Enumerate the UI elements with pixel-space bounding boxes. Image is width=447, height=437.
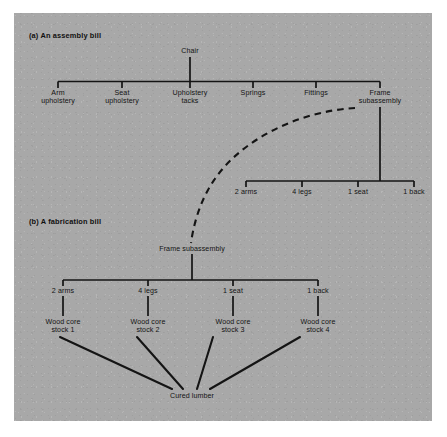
node-label-line2: subassembly (359, 97, 402, 105)
node-label-line2: stock 4 (306, 326, 329, 334)
node-label-1back-b: 1 back (307, 287, 329, 295)
edge-wood2-lumber (137, 337, 183, 389)
node-label-line2: upholstery (105, 97, 139, 105)
node-label-4legs-a: 4 legs (292, 188, 312, 196)
node-label-line1: Upholstery (173, 89, 208, 97)
figure-page: (a) An assembly bill Chair Arm upholster… (0, 0, 447, 437)
edge-wood4-lumber (210, 337, 300, 389)
node-label-fittings: Fittings (304, 89, 328, 97)
node-label-line1: Seat (114, 89, 129, 97)
node-label-seat-upholstery: Seat upholstery (105, 89, 139, 106)
node-label-wood-core-stock-4: Wood core stock 4 (300, 318, 335, 335)
panel-a-caption: (a) An assembly bill (29, 31, 101, 40)
node-label-2arms-a: 2 arms (235, 188, 257, 196)
node-label-1seat-b: 1 seat (223, 287, 243, 295)
node-label-line1: Arm (51, 89, 64, 97)
node-label-4legs-b: 4 legs (138, 287, 158, 295)
node-label-1back-a: 1 back (403, 188, 425, 196)
edge-wood3-lumber (197, 337, 213, 389)
node-label-line2: stock 2 (136, 326, 159, 334)
node-label-arm-upholstery: Arm upholstery (41, 89, 75, 106)
node-label-line1: Wood core (45, 318, 80, 326)
node-label-cured-lumber: Cured lumber (170, 392, 214, 400)
node-label-line1: Wood core (130, 318, 165, 326)
node-label-upholstery-tacks: Upholstery tacks (173, 89, 208, 106)
node-label-wood-core-stock-2: Wood core stock 2 (130, 318, 165, 335)
node-label-line2: stock 3 (221, 326, 244, 334)
dashed-link-curve (191, 108, 355, 243)
node-label-wood-core-stock-1: Wood core stock 1 (45, 318, 80, 335)
node-label-line1: Fittings (304, 89, 328, 97)
node-label-1seat-a: 1 seat (348, 188, 368, 196)
node-label-springs: Springs (241, 89, 266, 97)
node-label-line2: tacks (181, 97, 198, 105)
node-label-line1: Wood core (300, 318, 335, 326)
node-label-wood-core-stock-3: Wood core stock 3 (215, 318, 250, 335)
panel-b-caption: (b) A fabrication bill (29, 217, 101, 226)
node-label-line2: stock 1 (51, 326, 74, 334)
node-label-line1: Springs (241, 89, 266, 97)
node-label-line2: upholstery (41, 97, 75, 105)
node-label-frame-subassembly-a: Frame subassembly (359, 89, 402, 106)
node-label-2arms-b: 2 arms (52, 287, 74, 295)
node-label-line1: Frame (370, 89, 391, 97)
edge-wood1-lumber (60, 337, 172, 389)
node-label-frame-subassembly-b: Frame subassembly (159, 245, 225, 253)
node-label-chair: Chair (181, 47, 198, 55)
node-label-line1: Wood core (215, 318, 250, 326)
